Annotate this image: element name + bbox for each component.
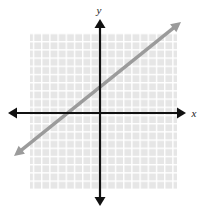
grid-area bbox=[30, 33, 177, 189]
y-axis-arrowhead-bottom bbox=[95, 197, 106, 206]
y-axis-label: y bbox=[96, 4, 102, 16]
y-axis-arrowhead-top bbox=[95, 19, 106, 28]
grid-background bbox=[30, 33, 177, 189]
graph-canvas: x y bbox=[0, 0, 199, 215]
x-axis-arrowhead-left bbox=[8, 108, 17, 119]
x-axis-arrowhead-right bbox=[177, 108, 186, 119]
x-axis-label: x bbox=[191, 107, 197, 119]
coordinate-plane-figure: x y bbox=[0, 0, 199, 215]
